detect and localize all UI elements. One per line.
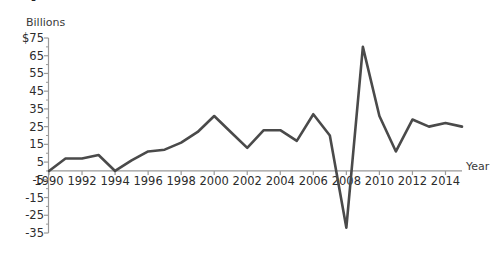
plot-area [0, 0, 504, 254]
line-chart: • Billions Year $756555453525155-5-15-25… [0, 0, 504, 254]
data-series-line [49, 47, 462, 228]
